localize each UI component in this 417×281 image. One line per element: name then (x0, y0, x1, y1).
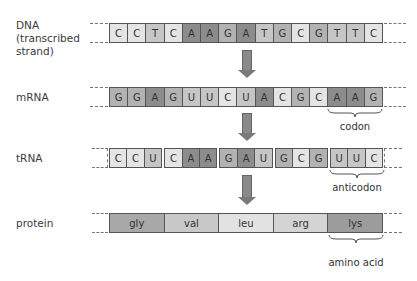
dna-base-cell: C (364, 23, 383, 43)
protein-dash-right-bottom (384, 232, 402, 233)
mrna-dash-left-top (90, 87, 108, 88)
protein-strand: glyvalleuarglys (109, 213, 383, 233)
trna-base-cell: U (254, 148, 272, 168)
mrna-base-cell: G (291, 87, 310, 107)
mrna-base-cell: G (109, 87, 128, 107)
dna-dash-right-top (384, 23, 406, 24)
mrna-base-cell: G (364, 87, 383, 107)
trna-dash-left-bottom (92, 167, 108, 168)
mrna-base-cell: A (327, 87, 346, 107)
trna-base-cell: G (309, 148, 327, 168)
mrna-base-cell: U (182, 87, 201, 107)
trna-base-cell: U (347, 148, 365, 168)
trna-dash-left-top (92, 148, 108, 149)
dna-base-cell: A (200, 23, 219, 43)
dna-label-line-3: strand) (16, 45, 80, 58)
dna-dash-left-top (90, 23, 108, 24)
dna-base-cell: C (164, 23, 183, 43)
amino-acid-cell: arg (273, 213, 329, 233)
mrna-base-cell: A (255, 87, 274, 107)
mrna-base-cell: A (346, 87, 365, 107)
codon-label: codon (327, 121, 383, 132)
dna-dash-left-bottom (90, 42, 108, 43)
anticodon-brace-icon (329, 169, 385, 179)
trna-dash-right-top (384, 148, 402, 149)
mrna-base-cell: G (164, 87, 183, 107)
protein-arrow-icon (238, 175, 256, 205)
dna-strand: CCTCAAGATGCGTTC (109, 23, 383, 43)
mrna-base-cell: C (273, 87, 292, 107)
trna-dash-left-vertical (107, 148, 108, 168)
dna-label: DNA (transcribed strand) (16, 19, 80, 58)
translation-arrow-icon (238, 113, 256, 141)
dna-base-cell: T (255, 23, 274, 43)
protein-dash-left-bottom (92, 232, 108, 233)
mrna-dash-right-top (384, 87, 406, 88)
amino-acid-brace-icon (328, 234, 384, 244)
dna-dash-right-bottom (384, 42, 406, 43)
dna-label-line-2: (transcribed (16, 32, 80, 45)
trna-base-cell: G (219, 148, 237, 168)
dna-base-cell: C (291, 23, 310, 43)
trna-base-cell: U (144, 148, 162, 168)
dna-base-cell: T (145, 23, 164, 43)
amino-acid-cell: gly (109, 213, 165, 233)
trna-base-cell: C (109, 148, 127, 168)
dna-base-cell: T (346, 23, 365, 43)
dna-label-line-1: DNA (16, 19, 80, 32)
dna-base-cell: A (182, 23, 201, 43)
trna-base-cell: U (330, 148, 348, 168)
amino-acid-cell: leu (218, 213, 274, 233)
trna-dash-right-vertical (384, 148, 385, 168)
amino-acid-cell: lys (327, 213, 383, 233)
trna-base-cell: A (237, 148, 255, 168)
trna-base-cell: C (292, 148, 310, 168)
trna-base-cell: A (182, 148, 200, 168)
dna-base-cell: A (236, 23, 255, 43)
dna-base-cell: T (327, 23, 346, 43)
trna-base-cell: C (365, 148, 383, 168)
dna-base-cell: C (127, 23, 146, 43)
mrna-dash-left-bottom (90, 106, 108, 107)
mrna-base-cell: U (236, 87, 255, 107)
mrna-strand: GGAGUUCUACGCAAG (109, 87, 383, 107)
trna-base-cell: C (126, 148, 144, 168)
trna-label: tRNA (16, 152, 42, 165)
trna-dash-right-bottom (384, 167, 402, 168)
anticodon-label: anticodon (325, 182, 389, 193)
dna-base-cell: C (109, 23, 128, 43)
trna-base-cell: G (275, 148, 293, 168)
protein-dash-right-top (384, 213, 402, 214)
mrna-base-cell: A (145, 87, 164, 107)
amino-acid-cell: val (164, 213, 220, 233)
amino-acid-label: amino acid (322, 257, 390, 268)
dna-base-cell: G (273, 23, 292, 43)
mrna-label: mRNA (16, 91, 49, 104)
trna-base-cell: A (199, 148, 217, 168)
dna-base-cell: G (309, 23, 328, 43)
mrna-dash-right-bottom (384, 106, 406, 107)
protein-dash-left-top (92, 213, 108, 214)
trna-base-cell: C (164, 148, 182, 168)
mrna-base-cell: U (200, 87, 219, 107)
transcription-arrow-icon (238, 50, 256, 78)
trna-strand: CCUCAAGAUGCGUUC (109, 148, 383, 168)
mrna-base-cell: C (309, 87, 328, 107)
mrna-base-cell: G (127, 87, 146, 107)
codon-brace-icon (327, 108, 383, 118)
mrna-base-cell: C (218, 87, 237, 107)
dna-base-cell: G (218, 23, 237, 43)
protein-label: protein (16, 217, 53, 230)
